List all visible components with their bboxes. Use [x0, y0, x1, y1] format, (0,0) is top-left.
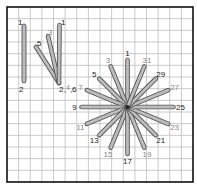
stitch-diagram: 1 2 1 3 5 2 , 4 , 6 13579111315171921232… — [0, 0, 197, 188]
star-label-3: 3 — [106, 56, 111, 65]
straight-stitch-label-end: 2 — [19, 85, 24, 94]
star-label-25: 25 — [176, 103, 185, 112]
star-label-1: 1 — [125, 49, 130, 58]
star-center-point — [126, 105, 130, 109]
star-label-7: 7 — [78, 83, 83, 92]
star-label-5: 5 — [92, 70, 97, 79]
star-label-11: 11 — [76, 123, 85, 132]
star-label-23: 23 — [170, 123, 179, 132]
fan-label-1: 1 — [61, 18, 66, 27]
star-label-29: 29 — [156, 70, 165, 79]
star-label-31: 31 — [143, 56, 152, 65]
star-label-13: 13 — [90, 136, 99, 145]
star-label-21: 21 — [156, 136, 165, 145]
straight-stitch-label-start: 1 — [18, 18, 23, 27]
star-label-27: 27 — [170, 83, 179, 92]
fan-label-3: 3 — [48, 28, 53, 37]
star-label-19: 19 — [143, 150, 152, 159]
star-label-15: 15 — [104, 150, 113, 159]
straight-stitch: 1 2 — [18, 18, 26, 94]
star-label-17: 17 — [123, 157, 132, 166]
fan-label-6: 6 — [72, 85, 77, 94]
fan-label-5: 5 — [37, 39, 42, 48]
star-label-9: 9 — [72, 103, 77, 112]
